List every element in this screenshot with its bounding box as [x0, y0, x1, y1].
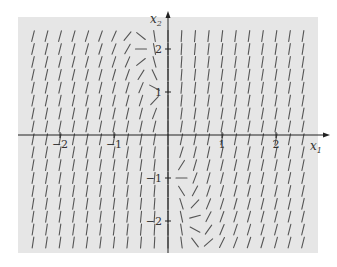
y-tick-label: 2 [155, 43, 162, 56]
x-tick-label: 2 [273, 138, 280, 151]
slope-segment [181, 44, 182, 55]
x-axis-arrow-icon [323, 133, 330, 138]
y-tick-label: 1 [155, 86, 162, 99]
x-tick-label: 1 [219, 138, 226, 151]
y-tick-label: −1 [146, 172, 162, 185]
y-axis-label: x2 [150, 12, 162, 28]
x-axis-label: x1 [310, 139, 322, 155]
slope-segment [181, 56, 182, 67]
slope-segment [154, 237, 155, 248]
slope-segment [181, 31, 182, 42]
direction-field-plot: −2−112−2−112 x1 x2 [0, 0, 337, 267]
y-tick-label: −2 [146, 215, 162, 228]
y-axis-arrow-icon [166, 11, 171, 18]
x-tick-label: −1 [106, 138, 122, 151]
x-tick-label: −2 [52, 138, 68, 151]
